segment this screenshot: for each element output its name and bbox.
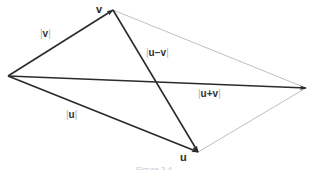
point-label-v: v: [96, 4, 102, 15]
magnitude-label-v: |v|: [40, 29, 51, 39]
magnitude-label-u-plus-v: |u+v|: [198, 89, 221, 99]
point-label-u: u: [180, 152, 187, 163]
magnitude-label-u: |u|: [66, 110, 77, 120]
figure-caption: Figure 3.4: [136, 165, 172, 170]
magnitude-text: u+v: [201, 88, 219, 99]
vector-v-arrow: [8, 10, 113, 76]
vector-diagram: [0, 0, 310, 170]
magnitude-text: u−v: [149, 47, 167, 58]
norm-bar-right: |: [48, 28, 51, 39]
parallelogram-side-v-to-sum: [113, 10, 306, 88]
vector-u-arrow: [8, 76, 198, 152]
magnitude-label-u-minus-v: |u−v|: [146, 48, 169, 58]
norm-bar-right: |: [218, 88, 221, 99]
norm-bar-right: |: [75, 109, 78, 120]
norm-bar-right: |: [166, 47, 169, 58]
